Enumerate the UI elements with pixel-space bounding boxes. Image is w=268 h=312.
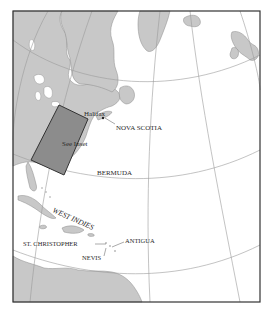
antigua-label: ANTIGUA	[125, 237, 155, 244]
jamaica-land	[39, 225, 46, 229]
nevis-label: NEVIS	[82, 254, 102, 261]
see-inset-label: See Inset	[62, 140, 88, 148]
map: Halifax NOVA SCOTIA See Inset BERMUDA WE…	[0, 0, 268, 312]
nova-scotia-label: NOVA SCOTIA	[116, 124, 162, 132]
bermuda-label: BERMUDA	[97, 169, 132, 177]
halifax-label: Halifax	[84, 110, 105, 118]
st-christopher-label: ST. CHRISTOPHER	[23, 240, 78, 247]
newfoundland-land	[119, 86, 134, 104]
puerto-rico-land	[88, 234, 94, 237]
